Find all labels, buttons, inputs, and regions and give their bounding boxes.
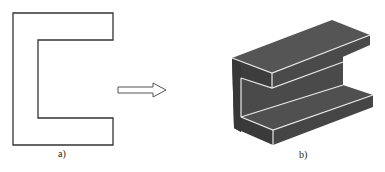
panel-b-label: b)	[299, 149, 307, 160]
panel-a-label: a)	[58, 148, 66, 159]
figure-canvas	[0, 0, 385, 172]
c-channel-3d-solid	[232, 20, 373, 145]
right-arrow-icon	[118, 83, 166, 97]
c-profile-outline	[13, 13, 113, 145]
